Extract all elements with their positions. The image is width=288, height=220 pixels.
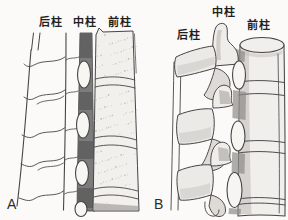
panel-b-anterior-column-drawing [238,38,285,217]
pedicle-shade-patch [232,90,246,120]
pedicle-shade-patch [229,208,242,215]
lamina-curve [66,57,79,60]
body-edge-line [135,34,137,73]
pedicle-oval [231,121,245,151]
spinous-process-curve [19,191,64,201]
spinous-tip-line [38,33,40,50]
spinous-process-curve [38,163,64,170]
pedicle-shade-patch [232,152,245,174]
panel-a-label-posterior-column: 后柱 [39,15,64,28]
lamina-line [64,33,67,210]
body-top-endplate [240,38,284,53]
panel-a-middle-column-drawing [75,33,95,217]
panel-b-letter: B [154,196,163,212]
spinous-process-curve [21,157,64,167]
spinous-process-curve [24,90,65,100]
ligament-line [171,62,174,210]
panel-b-posterior-column-drawing [171,46,233,217]
foramen-oval [76,161,89,186]
panel-a-label-middle-column: 中柱 [73,15,98,28]
figure-canvas: 后柱 中柱 前柱 [0,0,288,220]
panel-a: 后柱 中柱 前柱 [7,15,139,217]
posterior-outline [17,50,31,206]
pedicle-oval [227,173,242,208]
spine-three-column-figure: 后柱 中柱 前柱 [0,0,288,220]
panel-b-middle-column-drawing [213,23,246,214]
pedicle-oval [233,61,246,89]
panel-a-anterior-column-drawing [93,28,139,211]
canal-dark-patch [80,34,93,58]
panel-b-label-middle-column: 中柱 [212,5,237,18]
canal-dark-patch [78,141,94,159]
lamina-curve [66,91,78,94]
canal-dark-patch [79,92,93,110]
panel-a-posterior-column-drawing [17,33,79,210]
spinous-process-curve [22,128,65,138]
lamina-curve [66,128,79,131]
lamina-curve [65,157,78,160]
spinous-process-curve [37,96,64,104]
foramen-oval [75,202,87,217]
foramen-oval [78,61,91,88]
lamina-curve [65,191,78,194]
spinous-tip-line [32,33,34,50]
panel-b-label-anterior-column: 前柱 [247,18,272,31]
inferior-articular-hook [209,195,226,217]
panel-a-letter: A [7,196,17,212]
foramen-oval [77,112,90,138]
vertebral-body-strip [93,28,139,211]
panel-a-label-anterior-column: 前柱 [108,15,133,28]
panel-b: 中柱 前柱 后柱 B [154,5,285,217]
panel-b-label-posterior-column: 后柱 [177,28,202,41]
